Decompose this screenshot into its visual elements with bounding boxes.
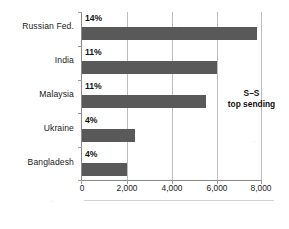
bar-malaysia: [82, 95, 206, 108]
bar-bangladesh: [82, 163, 127, 176]
y-tick-mark: [78, 147, 82, 148]
x-tick-label-0: 0: [80, 184, 85, 192]
category-label-bangladesh: Bangladesh: [0, 158, 74, 167]
y-tick-mark: [78, 46, 82, 47]
y-tick-mark: [78, 12, 82, 13]
category-label-ukraine: Ukraine: [0, 124, 74, 133]
bar-data-label-russian-fed: 14%: [85, 14, 102, 23]
chart-annotation: S–S top sending: [214, 88, 289, 111]
value-axis-tick-labels: 0 2,000 4,000 6,000 8,000: [82, 184, 262, 198]
x-tick-label-4000: 4,000: [162, 184, 183, 192]
category-label-india: India: [0, 56, 74, 65]
bar-russian-fed: [82, 27, 257, 40]
x-tick-label-8000: 8,000: [251, 184, 272, 192]
annotation-line-1: S–S: [214, 88, 289, 99]
scan-artifact-rule: [84, 200, 274, 201]
bar-india: [82, 61, 217, 74]
annotation-line-2: top sending: [214, 99, 289, 110]
y-tick-mark: [78, 80, 82, 81]
bar-data-label-india: 11%: [85, 48, 102, 57]
x-tick-label-2000: 2,000: [117, 184, 138, 192]
bar-data-label-bangladesh: 4%: [85, 150, 97, 159]
x-tick-label-6000: 6,000: [207, 184, 228, 192]
category-label-malaysia: Malaysia: [0, 90, 74, 99]
category-axis: Russian Fed. India Malaysia Ukraine Bang…: [0, 12, 78, 180]
y-tick-mark: [78, 113, 82, 114]
bar-data-label-malaysia: 11%: [85, 82, 102, 91]
bar-chart-figure: Russian Fed. India Malaysia Ukraine Bang…: [0, 0, 289, 229]
bar-ukraine: [82, 129, 135, 142]
bar-data-label-ukraine: 4%: [85, 116, 97, 125]
category-label-russian-fed: Russian Fed.: [0, 22, 74, 31]
